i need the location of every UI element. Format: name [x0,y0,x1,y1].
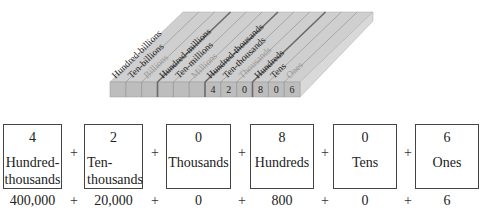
plus-sign: + [238,193,246,209]
plus-sign: + [321,193,329,209]
column-digit: 4 [210,84,215,95]
column-digit: 8 [258,84,263,95]
place-box-hundreds: 8 Hundreds [250,124,314,189]
column-digit: 2 [226,84,231,95]
plus-sign: + [404,145,412,161]
digit: 4 [4,129,61,146]
plus-sign: + [151,193,159,209]
place-value-chart: Hundred-billionsTen-billionsBillionsHund… [0,0,485,130]
place-value: 6 [415,193,479,209]
place-box-ones: 6 Ones [415,124,479,189]
plus-sign: + [151,145,159,161]
place-box-tens: 0 Tens [333,124,397,189]
place-value: 800 [250,193,314,209]
place-box-hundred-thousands: 4 Hundred- thousands [3,124,62,189]
digit: 0 [167,129,230,146]
column-digit: 0 [274,84,279,95]
place-label: Hundreds [251,154,313,171]
place-label: Hundred- [4,154,61,171]
digit: 8 [251,129,313,146]
place-value: 0 [333,193,397,209]
place-box-thousands: 0 Thousands [166,124,231,189]
place-box-ten-thousands: 2 Ten- thousands [84,124,143,189]
place-label: Ones [416,154,478,171]
place-label: Tens [334,154,396,171]
column-digit: 6 [290,84,295,95]
plus-sign: + [321,145,329,161]
place-label: thousands [87,171,142,188]
plus-sign: + [70,145,78,161]
place-value: 20,000 [84,193,143,209]
place-label: Thousands [167,154,230,171]
plus-sign: + [404,193,412,209]
digit: 0 [334,129,396,146]
digit: 2 [85,129,142,146]
plus-sign: + [238,145,246,161]
place-label: thousands [4,171,61,188]
place-value: 400,000 [3,193,62,209]
place-value: 0 [166,193,231,209]
plus-sign: + [70,193,78,209]
column-digit: 0 [242,84,247,95]
digit: 6 [416,129,478,146]
place-label: Ten- [87,154,142,171]
